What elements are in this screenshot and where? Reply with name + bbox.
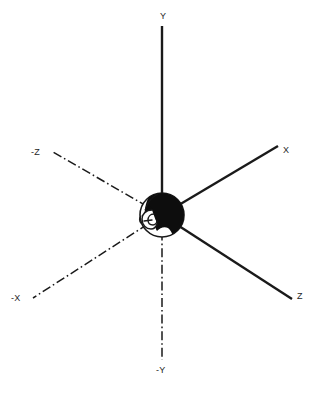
axis-line-minus-x: [33, 215, 162, 298]
axis-label-z-negative: -Z: [31, 148, 40, 157]
axis-label-y-negative: -Y: [156, 366, 166, 375]
axis-label-x-negative: -X: [11, 294, 21, 303]
coordinate-axis-diagram: Y -Y X -X Z -Z: [0, 0, 325, 399]
axis-line-plus-z: [162, 215, 292, 299]
axis-label-y-positive: Y: [160, 12, 166, 21]
listener-head-figure: [140, 192, 189, 238]
axis-label-z-positive: Z: [297, 292, 303, 301]
negative-axes-group: [33, 152, 162, 360]
positive-axes-group: [162, 26, 292, 299]
axis-label-x-positive: X: [283, 146, 289, 155]
axis-drawing-canvas: [0, 0, 325, 399]
